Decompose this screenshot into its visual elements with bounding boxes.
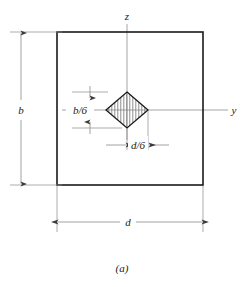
cross-section-diagram: b d b/6 d/6 z y [0, 0, 245, 287]
figure-caption: (a) [116, 262, 129, 275]
b6-dimension-label: b/6 [73, 104, 88, 116]
b-dimension-label: b [18, 104, 24, 116]
diamond-cutout [106, 92, 148, 128]
y-axis-label: y [231, 104, 237, 116]
b-dimension-group: b [10, 32, 62, 185]
d-dimension-group: d [57, 186, 203, 232]
figure-container: b d b/6 d/6 z y [0, 0, 245, 287]
z-axis-label: z [124, 10, 130, 22]
d-dimension-label: d [125, 216, 131, 228]
d6-dimension-label: d/6 [131, 139, 146, 151]
diamond-hatch-fill [106, 92, 148, 128]
